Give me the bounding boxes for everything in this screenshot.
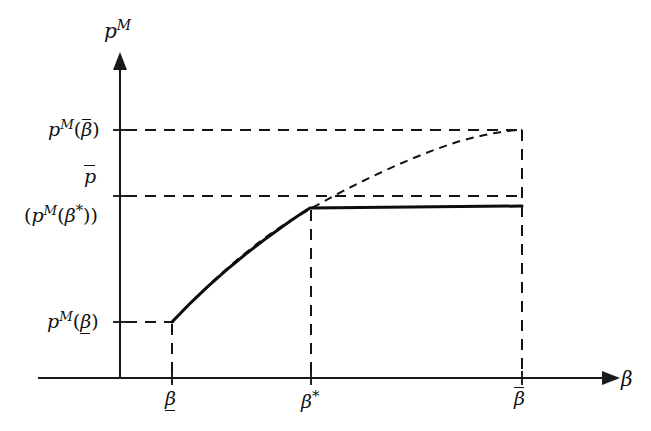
pm-betastar-arg-beta: β — [65, 204, 76, 226]
pm-betastar-open-paren: ( — [57, 204, 64, 226]
y-tick-label-pbar: p — [84, 167, 96, 186]
pm-betaunder-prefix: p — [47, 310, 59, 332]
y-tick-label-pm-betabar: pM(β) — [48, 118, 100, 139]
y-axis-label: pM — [104, 18, 131, 41]
x-beta-bar-base: β — [514, 389, 525, 408]
pm-betaunder-arg-beta-underbar: β — [80, 312, 91, 331]
pm-betastar-star: * — [76, 201, 83, 218]
pm-betabar-arg-beta-overbar: β — [81, 120, 92, 139]
x-axis-group — [38, 371, 620, 385]
pm-betastar-superscript: M — [44, 203, 58, 218]
pm-betastar-prefix: p — [31, 204, 43, 226]
pm-betabar-prefix: p — [48, 118, 60, 140]
x-tick-label-beta-star: β* — [301, 389, 319, 411]
guide-lines-group — [126, 130, 522, 374]
y-axis-label-superscript: M — [117, 17, 131, 33]
pm-betaunder-close-paren: ) — [91, 310, 98, 332]
x-axis-label: β — [621, 369, 633, 389]
x-beta-under-base: β — [165, 389, 176, 408]
x-axis-arrow-icon — [602, 371, 620, 385]
y-axis-arrow-icon — [113, 52, 127, 70]
pbar-base-overbar: p — [84, 167, 96, 186]
pm-betabar-close-paren: ) — [92, 118, 99, 140]
pm-betabar-superscript: M — [60, 117, 74, 132]
pm-betastar-outer-close-paren: ) — [90, 204, 97, 226]
x-tick-label-beta-bar: β — [514, 389, 525, 408]
series-unconstrained-price-dashed — [172, 130, 522, 322]
y-tick-label-pm-betastar: (pM(β*)) — [24, 203, 98, 225]
x-tick-label-beta-under: β — [165, 389, 176, 408]
series-constrained-price-solid — [172, 206, 522, 322]
y-axis-group — [113, 52, 127, 378]
y-tick-label-pm-betaunder: pM(β) — [47, 310, 99, 331]
x-beta-star-base: β — [301, 390, 312, 412]
pm-betaunder-superscript: M — [59, 309, 73, 324]
figure-canvas: pM pM(β) p (pM(β*)) pM(β) β β* β β — [0, 0, 651, 431]
x-axis-label-base: β — [621, 367, 633, 391]
y-axis-label-base: p — [104, 19, 117, 43]
x-beta-star-star: * — [312, 387, 319, 404]
